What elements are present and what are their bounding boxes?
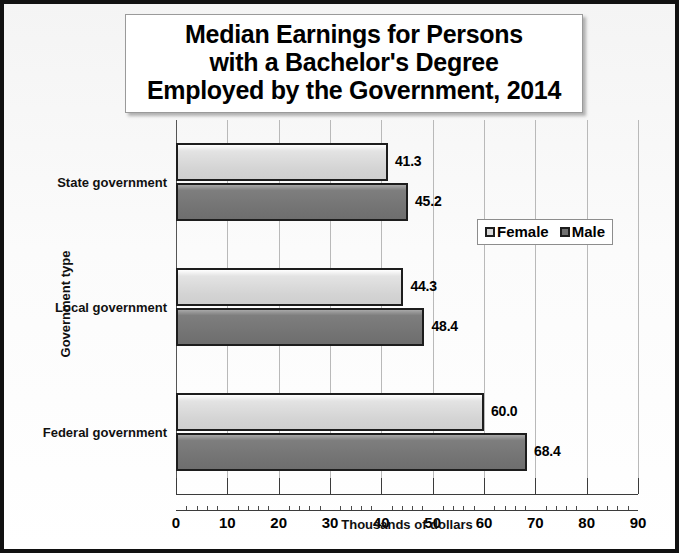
gridline-90: [638, 120, 639, 494]
chart-title-line-3: Employed by the Government, 2014: [136, 76, 572, 104]
chart-legend: Female Male: [477, 219, 613, 245]
gridline-80: [587, 120, 588, 494]
bar-value-label: 48.4: [431, 318, 457, 334]
gridline-70: [535, 120, 536, 494]
square-legend-icon: [560, 227, 570, 237]
bar-female-1: [176, 268, 403, 306]
bar-value-label: 45.2: [415, 193, 441, 209]
chart-canvas: 41.345.2State government44.348.4Local go…: [4, 4, 675, 549]
x-axis-minor-line: [176, 510, 638, 511]
bar-female-0: [176, 143, 388, 181]
category-label-0: State government: [57, 175, 167, 190]
tick-major-70: [535, 478, 536, 494]
bar-male-2: [176, 433, 527, 471]
legend-item-female: Female: [485, 223, 549, 240]
bar-female-2: [176, 393, 484, 431]
tick-major-90: [638, 478, 639, 494]
tick-major-50: [433, 478, 434, 494]
legend-item-male: Male: [560, 223, 605, 240]
x-axis-ticks: [176, 494, 638, 516]
tick-major-20: [279, 478, 280, 494]
bar-male-1: [176, 308, 424, 346]
plot-area: 41.345.2State government44.348.4Local go…: [176, 120, 638, 494]
legend-label-female: Female: [497, 223, 549, 240]
tick-major-60: [484, 478, 485, 494]
chart-screenshot: 41.345.2State government44.348.4Local go…: [0, 0, 679, 553]
chart-title: Median Earnings for Persons with a Bache…: [125, 14, 583, 113]
bar-male-0: [176, 183, 408, 221]
chart-title-line-1: Median Earnings for Persons: [136, 20, 572, 48]
chart-title-line-2: with a Bachelor's Degree: [136, 48, 572, 76]
tick-major-80: [587, 478, 588, 494]
legend-label-male: Male: [572, 223, 605, 240]
y-axis-title: Government type: [58, 251, 73, 358]
category-label-2: Federal government: [43, 424, 167, 439]
tick-major-30: [330, 478, 331, 494]
tick-major-0: [176, 478, 177, 494]
tick-major-40: [381, 478, 382, 494]
tick-major-10: [227, 478, 228, 494]
bar-value-label: 60.0: [491, 403, 517, 419]
bar-value-label: 41.3: [395, 153, 421, 169]
square-legend-icon: [485, 227, 495, 237]
bar-value-label: 68.4: [534, 443, 560, 459]
bar-value-label: 44.3: [410, 278, 436, 294]
x-axis-title: Thousands of dollars: [176, 517, 638, 532]
